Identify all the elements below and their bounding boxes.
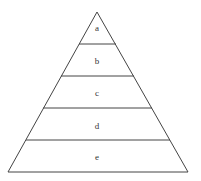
level-label-b: b xyxy=(95,56,100,66)
pyramid-diagram: a b c d e xyxy=(0,0,201,181)
level-label-c: c xyxy=(95,88,99,98)
level-label-a: a xyxy=(95,23,99,33)
level-label-d: d xyxy=(95,121,100,131)
level-label-e: e xyxy=(95,152,99,162)
